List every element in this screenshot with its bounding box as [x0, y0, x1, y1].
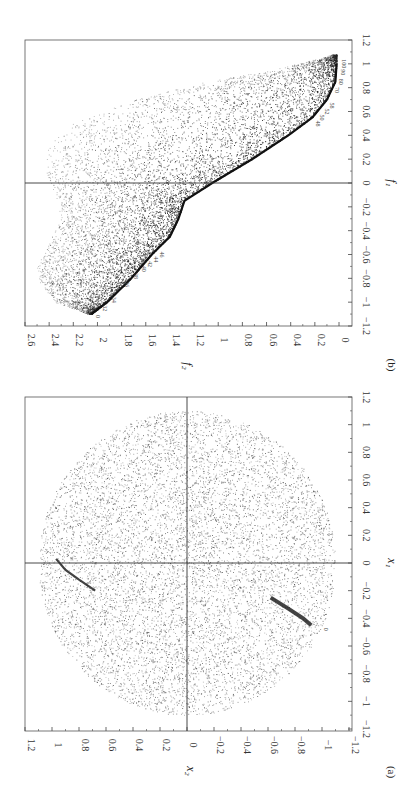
svg-text:38: 38: [133, 273, 139, 279]
f2-tick-label: 1.6: [147, 334, 158, 347]
f2-tick-label: 2.2: [74, 334, 85, 347]
svg-text:80: 80: [338, 79, 344, 85]
f2-tick-label: 0.6: [268, 334, 279, 347]
objective-samples: [37, 54, 337, 315]
f2-tick-label: 2.6: [26, 334, 37, 347]
svg-text:58: 58: [329, 103, 335, 109]
f1-tick-label: 0.6: [361, 105, 372, 118]
svg-text:52: 52: [324, 109, 330, 115]
panel-a-plot: −1.2−1−0.8−0.6−0.4−0.200.20.40.60.811.2x…: [25, 391, 399, 779]
f2-tick-label: 1.2: [195, 334, 206, 347]
f1-tick-label: −0.2: [361, 198, 372, 216]
f1-tick-label: −0.4: [361, 222, 372, 240]
x2-tick-label: −0.6: [269, 736, 280, 754]
svg-text:100: 100: [341, 59, 347, 68]
pareto-set-segment: [271, 598, 312, 626]
x2-tick-label: −0.4: [242, 736, 253, 754]
f1-tick-label: −1.2: [361, 317, 372, 335]
f1-tick-label: 0.8: [361, 81, 372, 94]
svg-text:40: 40: [141, 266, 147, 272]
x2-tick-label: 1.2: [26, 739, 37, 752]
x2-tick-label: 1: [53, 743, 64, 748]
panel-b-caption: (b): [385, 359, 398, 372]
f1-tick-label: −0.6: [361, 245, 372, 263]
pareto-set-annotation: 0: [323, 628, 329, 631]
x1-tick-label: −1.2: [361, 720, 372, 738]
x2-tick-label: −1: [323, 740, 334, 751]
x1-axis-title: x₁: [385, 557, 399, 568]
x2-tick-label: 0.2: [161, 739, 172, 752]
x2-tick-label: 0.8: [80, 739, 91, 752]
f2-tick-label: 0.8: [243, 334, 254, 347]
svg-text:34: 34: [111, 297, 117, 303]
x2-tick-label: −0.8: [296, 736, 307, 754]
f2-tick-label: 0.2: [316, 334, 327, 347]
svg-text:90: 90: [340, 69, 346, 75]
svg-text:48: 48: [315, 120, 321, 126]
x1-tick-label: −0.2: [361, 582, 372, 600]
decision-samples: [40, 411, 336, 715]
figure: 00.20.40.60.811.21.41.61.822.22.42.6f₂−1…: [0, 0, 415, 811]
x1-tick-label: 0.6: [361, 474, 372, 487]
f1-tick-label: 0.4: [361, 129, 372, 142]
f2-tick-label: 2: [98, 338, 109, 343]
f2-axis-title: f₂: [181, 362, 195, 370]
svg-text:32: 32: [102, 305, 108, 311]
panel-a-caption: (a): [385, 766, 398, 779]
f2-tick-label: 2.4: [50, 334, 61, 347]
svg-text:44: 44: [153, 256, 159, 262]
f1-tick-label: 0.2: [361, 153, 372, 166]
panel-b-plot: 00.20.40.60.811.21.41.61.822.22.42.6f₂−1…: [25, 34, 399, 372]
f1-tick-label: 1: [361, 61, 372, 66]
f2-tick-label: 0: [340, 338, 351, 343]
f1-axis-title: f₁: [385, 179, 399, 187]
x1-tick-label: 1.2: [361, 391, 372, 404]
svg-text:46: 46: [159, 252, 165, 258]
x1-tick-label: −0.4: [361, 609, 372, 627]
f1-tick-label: 1.2: [361, 34, 372, 47]
svg-text:50: 50: [319, 114, 325, 120]
x1-tick-label: −0.6: [361, 637, 372, 655]
svg-text:42: 42: [147, 261, 153, 267]
f1-tick-label: 0: [361, 181, 372, 186]
x2-tick-label: 0: [188, 743, 199, 748]
x1-tick-label: −1: [361, 696, 372, 707]
svg-text:0: 0: [95, 315, 101, 318]
x2-tick-label: 0.4: [134, 739, 145, 752]
x2-axis-title: x₂: [184, 765, 198, 776]
x2-tick-label: −0.2: [215, 736, 226, 754]
x1-tick-label: −0.8: [361, 665, 372, 683]
x1-tick-label: 0.2: [361, 529, 372, 542]
x2-tick-label: 0.6: [107, 739, 118, 752]
f2-tick-label: 1: [219, 338, 230, 343]
f1-tick-label: −1: [361, 297, 372, 308]
f1-tick-label: −0.8: [361, 269, 372, 287]
x1-tick-label: 1: [361, 422, 372, 427]
svg-text:70: 70: [334, 87, 340, 93]
svg-text:36: 36: [124, 281, 130, 287]
x1-tick-label: 0.4: [361, 501, 372, 513]
x2-tick-label: −1.2: [350, 736, 361, 754]
x1-tick-label: 0: [361, 561, 372, 566]
x1-tick-label: 0.8: [361, 446, 372, 459]
f2-tick-label: 0.4: [292, 334, 303, 347]
f2-tick-label: 1.8: [123, 334, 134, 347]
f2-tick-label: 1.4: [171, 334, 182, 347]
